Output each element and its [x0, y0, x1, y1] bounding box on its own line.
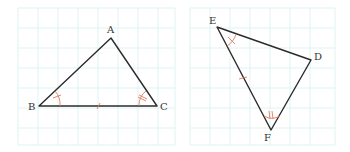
angle-b-tick	[53, 95, 61, 98]
vertex-label-b: B	[28, 101, 35, 112]
vertex-label-f: F	[264, 132, 271, 143]
grid-left	[18, 8, 175, 145]
triangle-edf: E D F	[209, 15, 322, 143]
vertex-label-e: E	[209, 15, 216, 26]
vertex-label-a: A	[106, 24, 115, 35]
angle-f-tick-2	[272, 111, 273, 119]
grid-right	[190, 8, 335, 145]
vertex-label-c: C	[160, 101, 168, 112]
diagram-canvas: A B C E D F	[0, 0, 350, 152]
vertex-label-d: D	[314, 51, 322, 62]
